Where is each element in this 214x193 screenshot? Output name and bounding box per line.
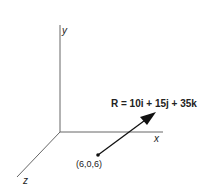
start-point [96,153,100,157]
arrowhead-icon [140,112,156,125]
start-point-label: (6,0,6) [76,160,102,169]
x-axis-label: x [154,134,159,144]
y-axis-label: y [62,26,67,36]
coordinate-diagram [0,0,214,193]
z-axis-label: z [23,176,28,186]
z-axis [17,132,60,177]
vector-label: R = 10i + 15j + 35k [111,99,197,109]
vector-shaft [98,118,148,155]
